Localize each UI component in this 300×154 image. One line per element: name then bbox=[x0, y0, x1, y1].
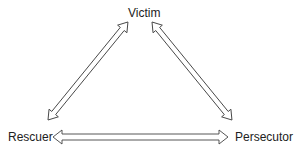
node-persecutor-label: Persecutor bbox=[235, 130, 293, 144]
node-rescuer-label: Rescuer bbox=[8, 130, 53, 144]
arrow-victim-persecutor bbox=[147, 18, 236, 124]
arrow-rescuer-victim bbox=[43, 18, 132, 124]
node-victim-label: Victim bbox=[128, 6, 160, 20]
arrow-rescuer-persecutor bbox=[53, 130, 228, 144]
